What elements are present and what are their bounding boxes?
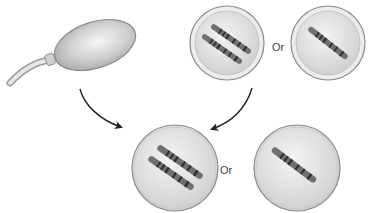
egg-one-chromosome bbox=[291, 6, 365, 80]
arrow-from-egg bbox=[212, 88, 252, 129]
sperm-head bbox=[48, 10, 142, 80]
egg-two-chromosomes bbox=[190, 6, 264, 80]
zygote-two-chromosomes bbox=[132, 125, 218, 211]
fertilization-diagram: Or Or bbox=[0, 0, 381, 213]
sperm-cell bbox=[10, 10, 142, 83]
or-label-top: Or bbox=[272, 41, 285, 53]
or-label-bottom: Or bbox=[220, 164, 233, 176]
zygote-one-chromosome bbox=[254, 125, 340, 211]
arrow-from-sperm bbox=[80, 89, 121, 127]
